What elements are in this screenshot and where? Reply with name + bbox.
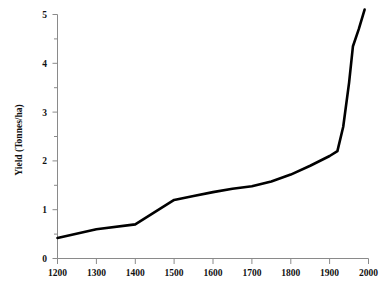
x-tick-label-1200: 1200 xyxy=(48,268,67,278)
line-chart: 0 1 2 3 4 5 1200 1300 1400 1500 1600 170… xyxy=(0,0,386,298)
x-tick-label-1300: 1300 xyxy=(87,268,106,278)
y-tick-label-1: 1 xyxy=(42,205,47,215)
y-tick-label-5: 5 xyxy=(42,10,47,20)
chart-container: 0 1 2 3 4 5 1200 1300 1400 1500 1600 170… xyxy=(0,0,386,298)
x-axis-tick-labels: 1200 1300 1400 1500 1600 1700 1800 1900 … xyxy=(48,268,378,278)
y-tick-label-0: 0 xyxy=(42,254,47,264)
plot-axes xyxy=(58,15,369,259)
x-tick-label-1400: 1400 xyxy=(126,268,145,278)
x-tick-label-1700: 1700 xyxy=(242,268,261,278)
y-axis-tick-labels: 0 1 2 3 4 5 xyxy=(42,10,47,264)
y-axis-title: Yield (Tonnes/ha) xyxy=(14,104,25,175)
x-tick-label-2000: 2000 xyxy=(359,268,378,278)
y-axis-ticks xyxy=(53,15,58,259)
x-axis-ticks xyxy=(58,259,369,265)
y-tick-label-2: 2 xyxy=(42,156,47,166)
y-tick-label-3: 3 xyxy=(42,108,47,118)
x-tick-label-1900: 1900 xyxy=(320,268,339,278)
x-tick-label-1600: 1600 xyxy=(204,268,223,278)
yield-series-line xyxy=(58,10,365,238)
y-tick-label-4: 4 xyxy=(42,59,47,69)
x-tick-label-1500: 1500 xyxy=(165,268,184,278)
x-tick-label-1800: 1800 xyxy=(281,268,300,278)
